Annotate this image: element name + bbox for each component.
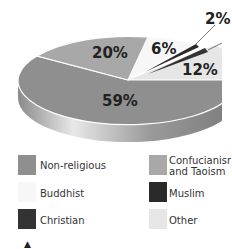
legend-swatch-non-religious	[18, 155, 36, 175]
legend-label-buddhist: Buddhist	[40, 188, 84, 199]
legend-swatch-christian	[18, 209, 36, 229]
legend-label-other: Other	[169, 215, 197, 226]
legend-label-non-religious: Non-religious	[40, 160, 106, 171]
legend-label-christian: Christian	[40, 215, 85, 226]
legend-swatch-buddhist	[18, 182, 36, 202]
label-59: 59%	[102, 92, 138, 110]
legend-label-confucianism: Confucianisr and Taoism	[169, 155, 231, 177]
label-6: 6%	[151, 40, 176, 58]
label-2: 2%	[205, 10, 230, 28]
label-20: 20%	[92, 44, 128, 62]
label-12: 12%	[182, 61, 218, 79]
legend-swatch-other	[149, 209, 167, 229]
legend-label-muslim: Muslim	[169, 188, 204, 199]
legend-swatch-muslim	[149, 182, 167, 202]
caret-mark: ▲	[24, 239, 31, 249]
legend-swatch-confucianism	[149, 155, 167, 175]
